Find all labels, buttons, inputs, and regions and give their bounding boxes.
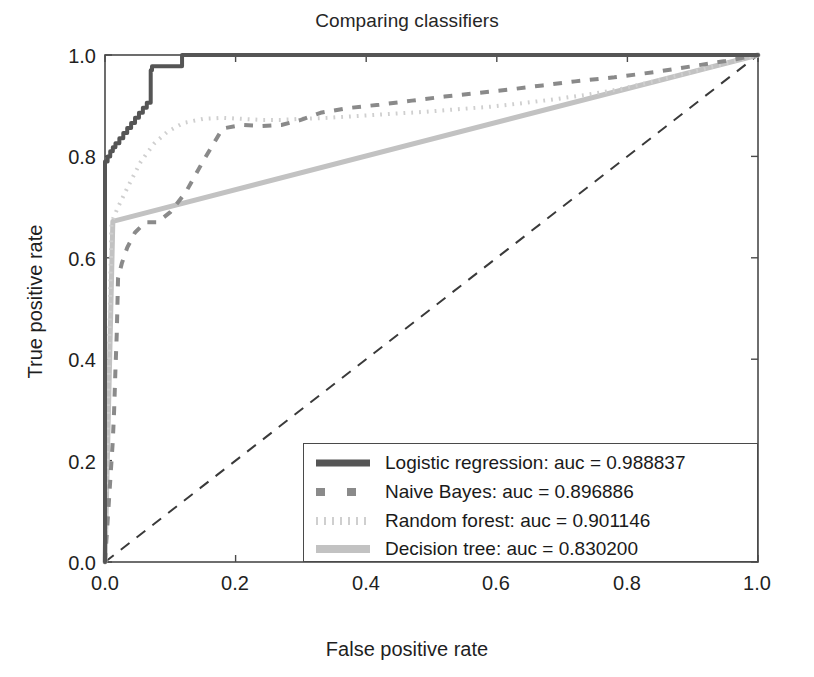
y-tick-label: 1.0	[36, 45, 96, 68]
legend-swatch-logistic-regression	[315, 454, 371, 472]
y-axis-label: True positive rate	[24, 172, 47, 432]
legend-label: Naive Bayes: auc = 0.896886	[385, 481, 634, 503]
y-tick-label: 0.8	[36, 146, 96, 169]
chart-legend: Logistic regression: auc = 0.988837 Naiv…	[303, 443, 758, 562]
y-tick-label: 0.2	[36, 451, 96, 474]
legend-swatch-random-forest	[315, 512, 371, 530]
x-tick-label: 0.4	[331, 572, 401, 595]
legend-swatch-decision-tree	[315, 540, 371, 558]
legend-item-random-forest: Random forest: auc = 0.901146	[304, 506, 757, 535]
x-axis-label: False positive rate	[0, 638, 814, 661]
legend-item-decision-tree: Decision tree: auc = 0.830200	[304, 534, 757, 563]
legend-label: Random forest: auc = 0.901146	[385, 510, 650, 532]
roc-chart-figure: Comparing classifiers 1.0 0.8 0.6 0.4 0.…	[0, 0, 814, 677]
legend-swatch-naive-bayes	[315, 483, 371, 501]
legend-item-logistic-regression: Logistic regression: auc = 0.988837	[304, 448, 757, 477]
x-tick-label: 0.8	[592, 572, 662, 595]
x-tick-label: 1.0	[722, 572, 792, 595]
legend-item-naive-bayes: Naive Bayes: auc = 0.896886	[304, 477, 757, 506]
x-tick-label: 0.2	[200, 572, 270, 595]
x-tick-label: 0.0	[70, 572, 140, 595]
legend-label: Decision tree: auc = 0.830200	[385, 538, 638, 560]
legend-label: Logistic regression: auc = 0.988837	[385, 452, 686, 474]
x-tick-label: 0.6	[461, 572, 531, 595]
